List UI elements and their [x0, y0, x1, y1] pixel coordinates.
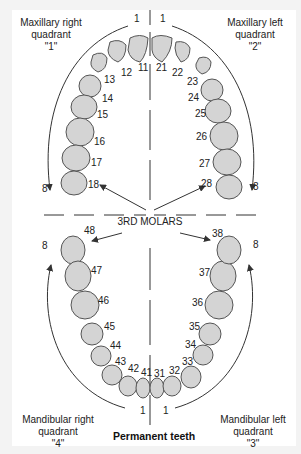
label-upper-8-left: 8 — [42, 183, 48, 194]
tooth-48: 48 — [84, 225, 96, 236]
label-upper-1-right: 1 — [160, 13, 166, 24]
tooth-12: 12 — [121, 67, 133, 78]
tooth-16: 16 — [94, 136, 106, 147]
tooth-38: 38 — [212, 228, 224, 239]
tooth-21: 21 — [156, 62, 168, 73]
tooth-14: 14 — [102, 93, 114, 104]
tooth-45: 45 — [104, 321, 116, 332]
label-maxillary-right: Maxillary right quadrant "1" — [16, 17, 86, 53]
tooth-44: 44 — [110, 340, 122, 351]
tooth-27: 27 — [199, 158, 211, 169]
tooth-11: 11 — [138, 62, 149, 73]
tooth-23: 23 — [187, 76, 199, 87]
tooth-28: 28 — [201, 178, 213, 189]
tooth-37: 37 — [199, 267, 211, 278]
tooth-33: 33 — [182, 356, 194, 367]
tooth-17: 17 — [91, 157, 103, 168]
tooth-41: 41 — [141, 367, 153, 378]
tooth-36: 36 — [192, 297, 204, 308]
label-lower-8-left: 8 — [42, 240, 48, 251]
label-upper-8-right: 8 — [253, 181, 259, 192]
tooth-26: 26 — [196, 131, 208, 142]
label-lower-8-right: 8 — [253, 239, 259, 250]
label-upper-1-left: 1 — [134, 13, 140, 24]
diagram-title: Permanent teeth — [113, 430, 195, 442]
label-maxillary-left: Maxillary left quadrant "2" — [216, 17, 294, 53]
tooth-43: 43 — [115, 356, 127, 367]
tooth-42: 42 — [128, 363, 140, 374]
upper-teeth — [61, 36, 242, 200]
tooth-22: 22 — [172, 67, 184, 78]
third-molars-label: 3RD MOLARS — [117, 216, 182, 227]
tooth-46: 46 — [98, 295, 110, 306]
tooth-25: 25 — [195, 108, 207, 119]
tooth-24: 24 — [188, 92, 200, 103]
tooth-47: 47 — [91, 265, 103, 276]
tooth-35: 35 — [189, 321, 201, 332]
label-lower-1-right: 1 — [163, 405, 169, 416]
dental-arch-diagram: 11 12 13 14 15 16 17 18 21 22 23 24 25 2… — [0, 0, 301, 454]
tooth-34: 34 — [185, 339, 197, 350]
label-mandibular-right: Mandibular right quadrant "4" — [16, 414, 100, 450]
label-lower-1-left: 1 — [140, 405, 146, 416]
label-mandibular-left: Mandibular left quadrant "3" — [211, 414, 295, 450]
tooth-31: 31 — [154, 368, 166, 379]
tooth-13: 13 — [104, 74, 116, 85]
tooth-18: 18 — [88, 179, 100, 190]
tooth-15: 15 — [97, 109, 109, 120]
tooth-32: 32 — [169, 365, 181, 376]
